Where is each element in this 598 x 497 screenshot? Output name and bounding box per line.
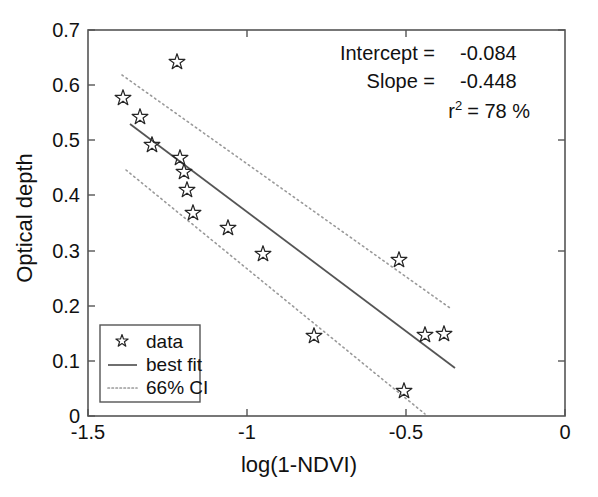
data-point-marker (255, 246, 271, 261)
data-point-marker (179, 182, 195, 197)
y-tick-label: 0.1 (24, 350, 80, 373)
x-tick-label: 0 (525, 421, 598, 444)
intercept-value: -0.084 (460, 42, 560, 65)
x-tick-label: -1.5 (48, 421, 128, 444)
data-point-marker (220, 220, 236, 235)
x-tick-label: -0.5 (366, 421, 446, 444)
data-point-marker (436, 326, 452, 341)
x-axis-title: log(1-NDVI) (0, 452, 598, 478)
intercept-label: Intercept = (300, 42, 435, 65)
y-axis-title: Optical depth (12, 148, 38, 288)
legend-label-best-fit[interactable]: best fit (146, 354, 202, 376)
data-point-marker (132, 109, 148, 124)
data-point-marker (169, 54, 185, 69)
r-squared-annotation: r2= 78 % (330, 98, 530, 123)
x-tick-label: -1 (207, 421, 287, 444)
y-tick-label: 0.2 (24, 295, 80, 318)
slope-value: -0.448 (460, 70, 560, 93)
legend-label-data[interactable]: data (146, 331, 183, 353)
data-point-marker (417, 327, 433, 342)
r-squared-suffix: = 78 % (467, 100, 530, 122)
data-point-marker (306, 328, 322, 343)
legend-label-ci[interactable]: 66% CI (146, 377, 208, 399)
data-point-marker (185, 205, 201, 220)
figure-container: 0 0.1 0.2 0.3 0.4 0.5 0.6 0.7 -1.5 -1 -0… (0, 0, 598, 497)
slope-label: Slope = (300, 70, 435, 93)
y-tick-label: 0.6 (24, 74, 80, 97)
data-point-marker (396, 383, 412, 398)
r-squared-superscript: 2 (455, 98, 462, 113)
data-point-marker (115, 90, 131, 105)
r-squared-prefix: r (448, 100, 455, 122)
data-point-marker (144, 137, 160, 152)
data-point-marker (176, 164, 192, 179)
data-point-marker (391, 252, 407, 267)
y-tick-label: 0.7 (24, 19, 80, 42)
